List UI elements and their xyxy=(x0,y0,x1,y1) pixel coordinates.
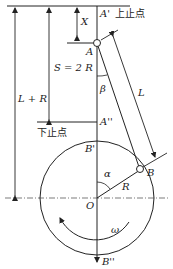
label-b-prime: B' xyxy=(84,143,95,154)
label-stroke: S = 2 R xyxy=(54,62,93,73)
label-top-dead-center: 上止点 xyxy=(115,8,145,19)
label-a: A xyxy=(85,46,93,57)
label-r: R xyxy=(121,181,130,192)
label-b-double-prime: B'' xyxy=(101,256,115,267)
label-a-double-prime: A'' xyxy=(99,116,113,127)
label-x: X xyxy=(80,16,89,27)
crank-pin-joint xyxy=(137,166,144,173)
rod-length-extension-top xyxy=(101,30,118,40)
label-l-plus-r: L + R xyxy=(17,93,47,104)
rod-length-extension-bottom xyxy=(143,153,167,167)
rod-length-dimension xyxy=(113,36,155,157)
alpha-angle-arc xyxy=(97,182,110,189)
label-alpha: α xyxy=(104,168,111,179)
label-l: L xyxy=(137,87,145,98)
label-beta: β xyxy=(99,83,106,94)
crank-slider-diagram: A' 上止点 X A S = 2 R β L L + R A'' 下止点 B' … xyxy=(0,0,173,269)
label-o: O xyxy=(86,200,94,211)
label-bottom-dead-center: 下止点 xyxy=(37,127,67,138)
label-a-prime: A' xyxy=(99,8,110,19)
beta-angle-arc xyxy=(97,75,107,76)
label-omega: ω xyxy=(111,224,119,235)
piston-pin-joint xyxy=(94,40,101,47)
label-b: B xyxy=(146,167,154,178)
connecting-rod xyxy=(98,46,139,167)
